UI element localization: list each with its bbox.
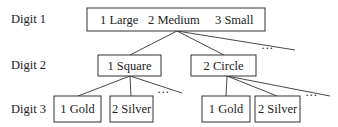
level-label-digit2: Digit 2 (11, 58, 46, 72)
digit2-circle-label: 2 Circle (204, 59, 244, 73)
digit3-silver-1-label: 2 Silver (112, 102, 152, 116)
digit1-item-medium: 2 Medium (148, 13, 200, 27)
digit3-ellipsis-1: ··· (157, 85, 170, 99)
edge-circle-silver (227, 76, 277, 96)
digit3-silver-2-label: 2 Silver (258, 102, 298, 116)
edge-circle-gold (226, 76, 227, 96)
edge-square-gold (78, 76, 130, 96)
edge-root-square (130, 31, 177, 55)
digit2-ellipsis: ··· (261, 41, 274, 55)
digit1-item-small: 3 Small (215, 13, 254, 27)
digit1-item-large: 1 Large (100, 13, 139, 27)
digit3-gold-2-label: 1 Gold (209, 102, 244, 116)
edge-square-more (130, 76, 182, 93)
level-label-digit1: Digit 1 (11, 12, 46, 26)
digit2-square-label: 1 Square (107, 59, 152, 73)
digit3-ellipsis-2: ··· (305, 88, 318, 102)
digit3-gold-1-label: 1 Gold (60, 102, 95, 116)
level-label-digit3: Digit 3 (11, 102, 46, 116)
tree-diagram: Digit 1 Digit 2 Digit 3 1 Large 2 Medium… (0, 0, 338, 127)
edge-square-silver (130, 76, 131, 96)
